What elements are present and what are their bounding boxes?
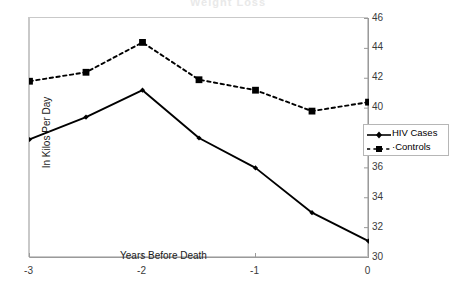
square-marker-icon [366,141,392,153]
x-axis-tick-label: 0 [353,266,383,276]
chart-title-faded: Weight Loss [0,0,456,8]
y-axis-tick-label: 34 [372,192,383,202]
y-axis-tick-label: 42 [372,72,383,82]
y-axis-tick-label: 32 [372,222,383,232]
plot-area [28,17,368,257]
legend-label-controls: ·Controls [392,141,431,153]
y-axis-tick-label: 36 [372,162,383,172]
legend: HIV Cases ·Controls [363,124,449,156]
y-axis-tick-label: 30 [372,252,383,262]
chart-page: Weight Loss 303234363840424446 -3-2-10 I… [0,0,456,293]
diamond-marker-icon [366,127,392,139]
legend-item-hiv-cases: HIV Cases [366,126,446,140]
y-axis-tick-label: 44 [372,42,383,52]
x-axis-tick-label: -2 [127,266,157,276]
x-axis-tick-label: -3 [14,266,44,276]
legend-label-hiv-cases: HIV Cases [392,127,437,139]
legend-item-controls: ·Controls [366,140,446,154]
y-axis-tick-label: 46 [372,13,383,23]
y-axis-tick-label: 40 [372,102,383,112]
plot-svg [29,18,369,258]
x-axis-tick-label: -1 [240,266,270,276]
